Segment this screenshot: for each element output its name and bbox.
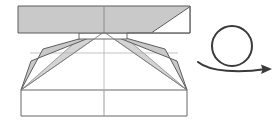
center-white-tab: [79, 33, 127, 39]
origami-diagram-canvas: [0, 0, 278, 121]
origami-diagram-svg: [0, 0, 278, 121]
